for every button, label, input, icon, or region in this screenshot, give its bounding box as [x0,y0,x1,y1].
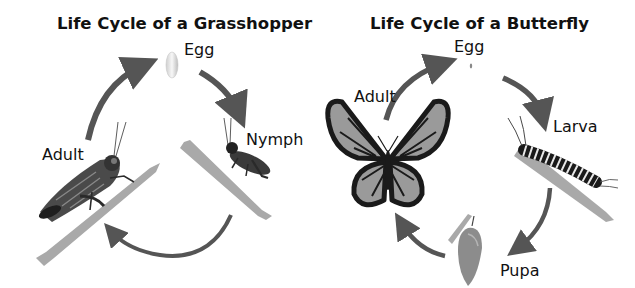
arrow-larva-to-pupa [518,188,550,248]
arrow-pupa-to-adult [402,224,445,256]
arrow-egg-to-larva [503,78,542,116]
grasshopper-egg-icon [166,52,178,78]
grasshopper-egg-label: Egg [184,40,214,59]
butterfly-larva-label: Larva [553,117,598,136]
grasshopper-nymph-label: Nymph [246,130,303,149]
butterfly-egg-icon [470,64,472,69]
butterfly-diagram: Life Cycle of a Butterfly Egg Adult Larv… [318,0,635,288]
grasshopper-diagram: Life Cycle of a Grasshopper Egg Nymph Ad… [0,0,318,288]
arrow-egg-to-nymph [200,72,238,112]
butterfly-pupa-label: Pupa [500,261,539,280]
butterfly-adult-label: Adult [354,87,396,106]
butterfly-egg-label: Egg [454,37,484,56]
arrow-nymph-to-adult [112,215,231,256]
grasshopper-adult-label: Adult [42,145,84,164]
grasshopper-title: Life Cycle of a Grasshopper [57,14,312,33]
arrow-adult-to-egg [88,66,142,140]
adult-grasshopper-icon [37,122,134,222]
butterfly-title: Life Cycle of a Butterfly [370,14,589,33]
nymph-branch-icon [180,140,272,220]
